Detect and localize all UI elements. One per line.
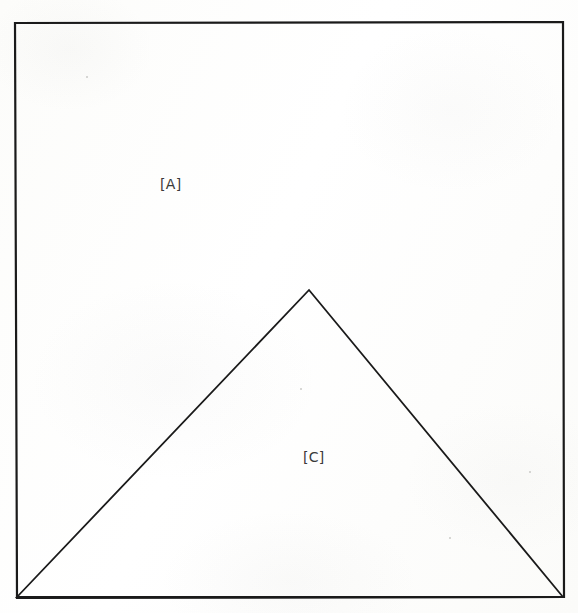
scan-speck <box>86 76 88 78</box>
figure-canvas: [A] [C] <box>0 0 578 613</box>
figure-vector-layer <box>0 0 578 613</box>
region-label-a: [A] <box>160 177 181 191</box>
scan-speck <box>529 471 531 473</box>
region-label-c: [C] <box>303 450 325 464</box>
scan-speck <box>300 388 302 390</box>
scan-speck <box>449 537 451 539</box>
inner-triangle-shape <box>17 290 563 597</box>
